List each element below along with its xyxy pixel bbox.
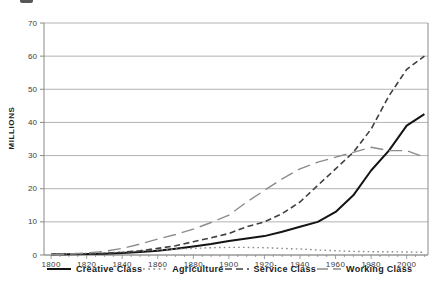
series-line-creative-class (51, 114, 424, 254)
y-tick-label: 0 (33, 251, 38, 260)
y-tick-label: 50 (28, 85, 37, 94)
y-tick-label: 70 (28, 19, 37, 28)
y-tick-label: 40 (28, 118, 37, 127)
legend-marker-longdash-icon (316, 265, 342, 273)
legend-label-service-class: Service Class (254, 264, 316, 274)
y-tick-label: 20 (28, 184, 37, 193)
legend-marker-dashed-icon (224, 265, 250, 273)
legend-item-working-class: Working Class (316, 264, 412, 274)
legend-marker-dotted-icon (142, 265, 168, 273)
legend-marker-solid-icon (46, 265, 72, 273)
class-structure-line-chart: MILLIONS 0102030405060701800182018401860… (0, 0, 438, 283)
y-tick-label: 30 (28, 151, 37, 160)
series-line-working-class (51, 147, 424, 254)
plot-area: 0102030405060701800182018401860188019001… (0, 0, 438, 283)
y-tick-label: 60 (28, 52, 37, 61)
legend-item-service-class: Service Class (224, 264, 316, 274)
legend-label-agriculture: Agriculture (172, 264, 223, 274)
legend-item-agriculture: Agriculture (142, 264, 223, 274)
y-tick-label: 10 (28, 217, 37, 226)
legend-item-creative-class: Creative Class (46, 264, 142, 274)
legend-label-creative-class: Creative Class (76, 264, 142, 274)
legend-label-working-class: Working Class (346, 264, 412, 274)
chart-legend: Creative ClassAgricultureService ClassWo… (46, 264, 404, 274)
